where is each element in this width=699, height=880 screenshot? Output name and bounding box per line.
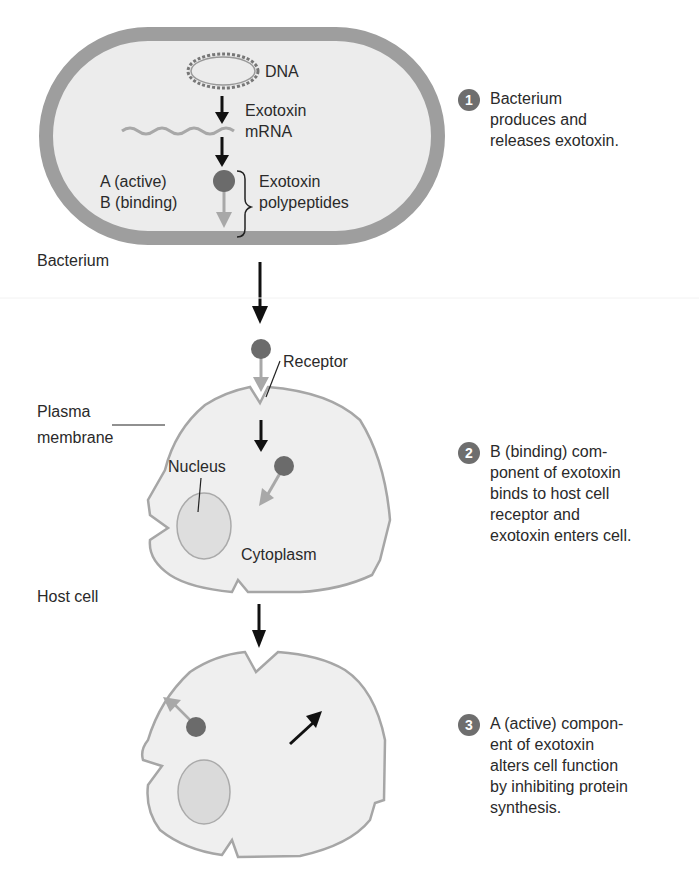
arrow-down-icon bbox=[252, 630, 266, 648]
label-polypeptides-2: polypeptides bbox=[259, 193, 349, 213]
label-cytoplasm: Cytoplasm bbox=[241, 545, 317, 565]
label-exotoxin-mrna-2: mRNA bbox=[245, 122, 292, 142]
host-cell-membrane-2 bbox=[142, 652, 385, 857]
step-description: Bacterium produces and releases exotoxin… bbox=[490, 88, 685, 151]
label-polypeptides-1: Exotoxin bbox=[259, 172, 320, 192]
step-2: 2 B (binding) com- ponent of exotoxin bi… bbox=[458, 441, 685, 546]
label-host-cell: Host cell bbox=[37, 587, 98, 607]
label-b-binding: B (binding) bbox=[100, 193, 177, 213]
step-1: 1 Bacterium produces and releases exotox… bbox=[458, 88, 685, 151]
step-number-badge: 1 bbox=[458, 89, 480, 111]
label-a-active: A (active) bbox=[100, 172, 167, 192]
label-bacterium: Bacterium bbox=[37, 251, 109, 271]
label-plasma-2: membrane bbox=[37, 428, 113, 448]
step-number-badge: 2 bbox=[458, 442, 480, 464]
nucleus-2 bbox=[178, 760, 230, 824]
step-3: 3 A (active) compon- ent of exotoxin alt… bbox=[458, 713, 685, 818]
step-description: B (binding) com- ponent of exotoxin bind… bbox=[490, 441, 685, 546]
arrow-down-icon bbox=[252, 306, 268, 324]
step-description: A (active) compon- ent of exotoxin alter… bbox=[490, 713, 685, 818]
label-receptor: Receptor bbox=[283, 352, 348, 372]
label-dna: DNA bbox=[265, 62, 299, 82]
exotoxin-binding-icon bbox=[251, 339, 271, 392]
label-nucleus: Nucleus bbox=[168, 457, 226, 477]
label-exotoxin-mrna-1: Exotoxin bbox=[245, 101, 306, 121]
step-number-badge: 3 bbox=[458, 714, 480, 736]
label-plasma-1: Plasma bbox=[37, 402, 90, 422]
nucleus bbox=[177, 493, 231, 559]
